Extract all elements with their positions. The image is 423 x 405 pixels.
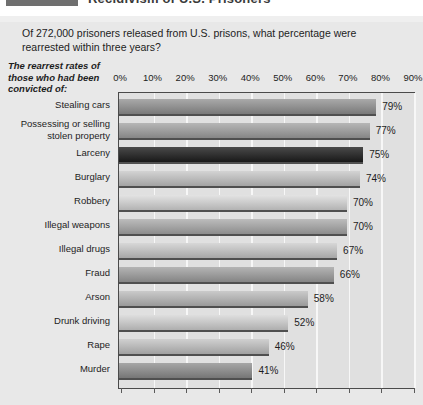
bar-baseline-shadow bbox=[119, 186, 360, 188]
bar-possessing-or-selling-stolen-property bbox=[119, 123, 370, 138]
x-tickmark-20 bbox=[186, 388, 187, 393]
bar-baseline-shadow bbox=[119, 306, 308, 308]
bar-row: 74% bbox=[119, 167, 415, 191]
bar-value-label: 70% bbox=[353, 219, 373, 234]
category-label-line: Rape bbox=[0, 334, 110, 351]
category-label-line: Murder bbox=[0, 358, 110, 375]
x-tickmark-40 bbox=[251, 388, 252, 393]
x-tickmark-50 bbox=[284, 388, 285, 393]
x-tickmark-70 bbox=[349, 388, 350, 393]
category-label: Illegal drugs bbox=[0, 238, 110, 262]
bar-row: 67% bbox=[119, 239, 415, 263]
x-tick-label-0: 0% bbox=[113, 72, 127, 83]
x-tick-label-10: 10% bbox=[143, 72, 162, 83]
heading-swatch bbox=[6, 0, 78, 6]
plot-area: 79%77%75%74%70%70%67%66%58%52%46%41% bbox=[118, 92, 415, 389]
category-label-line: stolen property bbox=[0, 130, 110, 142]
bar-robbery bbox=[119, 195, 347, 210]
category-label: Murder bbox=[0, 358, 110, 382]
category-label-line: Larceny bbox=[0, 142, 110, 159]
bar-row: 70% bbox=[119, 191, 415, 215]
category-label-line: Possessing or selling bbox=[0, 118, 110, 130]
bar-larceny bbox=[119, 147, 363, 162]
x-axis-tick-labels: 0%10%20%30%40%50%60%70%80%90% bbox=[118, 72, 415, 86]
category-label-line: Arson bbox=[0, 286, 110, 303]
x-tick-label-80: 80% bbox=[371, 72, 390, 83]
x-tickmark-0 bbox=[121, 388, 122, 393]
chart-caption: The rearrest rates of those who had been… bbox=[8, 60, 112, 95]
category-label: Arson bbox=[0, 286, 110, 310]
bar-value-label: 70% bbox=[353, 195, 373, 210]
category-label-line: Stealing cars bbox=[0, 94, 110, 111]
bar-arson bbox=[119, 291, 308, 306]
category-axis-labels: Stealing carsPossessing or sellingstolen… bbox=[0, 92, 114, 389]
bar-fraud bbox=[119, 267, 334, 282]
category-label-line: Robbery bbox=[0, 190, 110, 207]
category-label: Rape bbox=[0, 334, 110, 358]
bar-baseline-shadow bbox=[119, 354, 269, 356]
category-label-line: Illegal weapons bbox=[0, 214, 110, 231]
bar-value-label: 67% bbox=[343, 243, 363, 258]
category-label: Possessing or sellingstolen property bbox=[0, 118, 110, 142]
bar-row: 70% bbox=[119, 215, 415, 239]
category-label: Fraud bbox=[0, 262, 110, 286]
chart-question: Of 272,000 prisoners released from U.S. … bbox=[22, 26, 404, 54]
bar-baseline-shadow bbox=[119, 234, 347, 236]
bar-baseline-shadow bbox=[119, 378, 252, 380]
bar-burglary bbox=[119, 171, 360, 186]
bar-value-label: 75% bbox=[369, 147, 389, 162]
category-label: Larceny bbox=[0, 142, 110, 166]
x-tick-label-50: 50% bbox=[273, 72, 292, 83]
bar-row: 58% bbox=[119, 287, 415, 311]
bar-value-label: 79% bbox=[382, 99, 402, 114]
bar-row: 66% bbox=[119, 263, 415, 287]
category-label-line: Burglary bbox=[0, 166, 110, 183]
x-tick-label-30: 30% bbox=[208, 72, 227, 83]
category-label-line: Illegal drugs bbox=[0, 238, 110, 255]
x-tickmark-90 bbox=[414, 388, 415, 393]
category-label-line: Fraud bbox=[0, 262, 110, 279]
category-label-line: Drunk driving bbox=[0, 310, 110, 327]
bar-value-label: 66% bbox=[340, 267, 360, 282]
bar-baseline-shadow bbox=[119, 258, 337, 260]
x-tick-label-90: 90% bbox=[403, 72, 422, 83]
bar-baseline-shadow bbox=[119, 162, 363, 164]
bar-row: 79% bbox=[119, 95, 415, 119]
bar-row: 46% bbox=[119, 335, 415, 359]
bar-value-label: 41% bbox=[258, 363, 278, 378]
x-tick-label-70: 70% bbox=[338, 72, 357, 83]
category-label: Robbery bbox=[0, 190, 110, 214]
bar-stealing-cars bbox=[119, 99, 376, 114]
category-label: Drunk driving bbox=[0, 310, 110, 334]
bar-baseline-shadow bbox=[119, 138, 370, 140]
bar-row: 41% bbox=[119, 359, 415, 383]
bar-value-label: 74% bbox=[366, 171, 386, 186]
cropped-page-heading: Recidivism of U.S. Prisoners bbox=[0, 0, 423, 8]
x-tick-label-40: 40% bbox=[241, 72, 260, 83]
bar-murder bbox=[119, 363, 252, 378]
bar-baseline-shadow bbox=[119, 282, 334, 284]
bar-baseline-shadow bbox=[119, 114, 376, 116]
bar-illegal-weapons bbox=[119, 219, 347, 234]
bar-value-label: 77% bbox=[376, 123, 396, 138]
bar-value-label: 46% bbox=[275, 339, 295, 354]
x-tickmark-80 bbox=[381, 388, 382, 393]
category-label: Stealing cars bbox=[0, 94, 110, 118]
bar-baseline-shadow bbox=[119, 210, 347, 212]
bar-value-label: 52% bbox=[294, 315, 314, 330]
bar-baseline-shadow bbox=[119, 330, 288, 332]
x-tickmark-30 bbox=[219, 388, 220, 393]
bar-row: 52% bbox=[119, 311, 415, 335]
chart-figure: Of 272,000 prisoners released from U.S. … bbox=[0, 16, 423, 405]
bar-value-label: 58% bbox=[314, 291, 334, 306]
bar-drunk-driving bbox=[119, 315, 288, 330]
x-tick-label-20: 20% bbox=[176, 72, 195, 83]
bar-illegal-drugs bbox=[119, 243, 337, 258]
x-tick-label-60: 60% bbox=[306, 72, 325, 83]
x-tickmark-60 bbox=[316, 388, 317, 393]
category-label: Illegal weapons bbox=[0, 214, 110, 238]
bar-row: 75% bbox=[119, 143, 415, 167]
heading-cut-text: Recidivism of U.S. Prisoners bbox=[88, 0, 271, 6]
bar-rape bbox=[119, 339, 269, 354]
bar-row: 77% bbox=[119, 119, 415, 143]
